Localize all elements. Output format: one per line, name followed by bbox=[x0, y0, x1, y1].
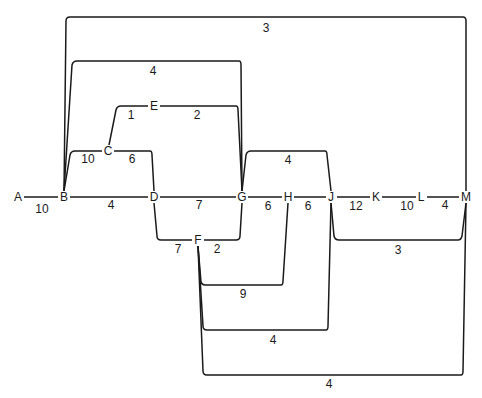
node-J: J bbox=[326, 190, 336, 204]
edge-F-G bbox=[204, 203, 242, 240]
node-G: G bbox=[237, 190, 247, 204]
node-F: F bbox=[193, 233, 203, 247]
edge-F-H bbox=[198, 203, 288, 285]
node-label: F bbox=[194, 233, 201, 247]
node-label: H bbox=[284, 190, 293, 204]
node-D: D bbox=[149, 190, 159, 204]
node-C: C bbox=[103, 144, 113, 158]
node-label: L bbox=[418, 190, 425, 204]
edge-D-F bbox=[154, 203, 192, 240]
edge-weight-B-M: 3 bbox=[263, 21, 270, 35]
node-H: H bbox=[283, 190, 293, 204]
edge-weight-B-D: 4 bbox=[108, 198, 115, 212]
node-label: E bbox=[150, 99, 158, 113]
edge-F-M bbox=[198, 203, 466, 375]
edge-weight-G-J: 4 bbox=[285, 153, 292, 167]
edge-weight-K-L: 10 bbox=[400, 199, 414, 213]
node-B: B bbox=[59, 190, 69, 204]
edge-weight-F-M: 4 bbox=[326, 377, 333, 391]
edge-E-G bbox=[160, 106, 242, 191]
node-label: A bbox=[14, 190, 22, 204]
node-M: M bbox=[461, 190, 471, 204]
node-label: J bbox=[328, 190, 334, 204]
edge-weight-J-K: 12 bbox=[349, 199, 363, 213]
node-A: A bbox=[13, 190, 23, 204]
edge-weight-F-G: 2 bbox=[214, 242, 221, 256]
node-label: G bbox=[237, 190, 246, 204]
edge-B-M bbox=[64, 17, 466, 191]
edge-weight-J-M: 3 bbox=[395, 243, 402, 257]
node-label: C bbox=[104, 144, 113, 158]
network-diagram: 1047661210410612437249443 ABCDEFGHJKLM bbox=[0, 0, 482, 398]
node-L: L bbox=[416, 190, 426, 204]
edge-F-J bbox=[198, 203, 331, 330]
node-label: K bbox=[372, 190, 380, 204]
node-E: E bbox=[149, 99, 159, 113]
edge-weight-C-E: 1 bbox=[128, 108, 135, 122]
edge-weight-A-B: 10 bbox=[35, 202, 49, 216]
edge-weight-C-D: 6 bbox=[129, 152, 136, 166]
edge-weight-F-H: 9 bbox=[240, 287, 247, 301]
node-label: B bbox=[60, 190, 68, 204]
edge-weight-B-C: 10 bbox=[81, 152, 95, 166]
edge-weight-G-H: 6 bbox=[265, 199, 272, 213]
edge-weight-F-J: 4 bbox=[270, 333, 277, 347]
edge-weight-B-G: 4 bbox=[150, 64, 157, 78]
edge-weight-E-G: 2 bbox=[194, 108, 201, 122]
node-K: K bbox=[371, 190, 381, 204]
node-label: D bbox=[150, 190, 159, 204]
edge-weight-D-F: 7 bbox=[175, 242, 182, 256]
edge-weight-L-M: 4 bbox=[442, 198, 449, 212]
edge-weight-H-J: 6 bbox=[305, 199, 312, 213]
edge-weight-D-G: 7 bbox=[196, 198, 203, 212]
node-label: M bbox=[461, 190, 471, 204]
